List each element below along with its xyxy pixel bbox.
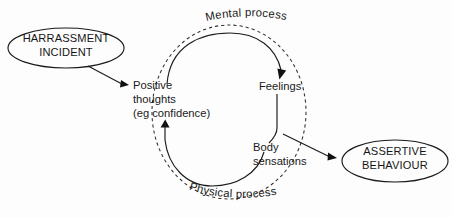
arrowhead-trigger-to-thoughts [120, 80, 129, 88]
arrowhead-to-assertive-behaviour [328, 153, 338, 161]
positive-thoughts-line1: Positive [133, 79, 172, 91]
arrow-trigger-to-thoughts [88, 66, 122, 84]
body-sensations-line2: sensations [253, 155, 307, 167]
feelings-label: Feelings [259, 80, 302, 92]
arc-body-to-thoughts [165, 124, 264, 186]
positive-thoughts-line2: thoughts [133, 93, 176, 105]
harrassment-incident-line1: HARRASSMENT [23, 32, 110, 44]
arrowhead-into-thoughts [161, 120, 170, 128]
assertive-behaviour-line2: BEHAVIOUR [362, 159, 428, 171]
arrow-to-assertive-behaviour [283, 134, 330, 157]
mental-process-label: Mental process [204, 6, 288, 23]
positive-thoughts-line3: (eg confidence) [133, 107, 210, 119]
line-feelings-to-body [269, 94, 277, 143]
assertive-behaviour-line1: ASSERTIVE [363, 145, 426, 157]
body-sensations-line1: Body [253, 141, 279, 153]
harrassment-incident-line2: INCIDENT [39, 46, 93, 58]
arrowhead-into-feelings [277, 69, 286, 80]
diagram-canvas: Mental process Physical process HARRASSM… [0, 0, 452, 218]
cycle-diagram: Mental process Physical process HARRASSM… [0, 0, 452, 218]
